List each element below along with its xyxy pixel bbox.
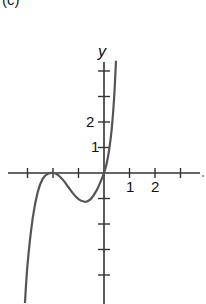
x-tick-label-1: 1: [126, 178, 134, 195]
y-axis-label: y: [98, 43, 106, 61]
y-tick-label-1: 1: [91, 138, 99, 155]
x-tick-label-2: 2: [151, 178, 159, 195]
y-tick-label-2: 2: [86, 113, 94, 130]
function-graph: (c) y 2 1 1 2: [0, 0, 206, 304]
axes: [8, 62, 204, 304]
x-axis-end-mark: [202, 175, 204, 177]
